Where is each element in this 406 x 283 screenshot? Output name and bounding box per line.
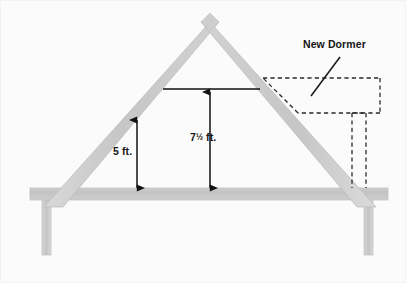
ceiling-joist xyxy=(30,188,388,200)
dimension-label-7-5ft: 7½ ft. xyxy=(190,131,216,143)
diagram-figure: 5 ft. 7½ ft. New Dormer xyxy=(0,0,406,283)
dormer-wall-drop-lines xyxy=(352,113,366,188)
dimension-7-5ft-fraction: ½ xyxy=(196,132,203,142)
new-dormer-leader-line xyxy=(311,57,340,96)
ceiling-joist-band xyxy=(30,188,388,200)
ridge-cap xyxy=(201,13,219,30)
dimension-7-5ft-unit: ft. xyxy=(203,131,216,143)
dimension-label-5ft: 5 ft. xyxy=(113,145,132,157)
new-dormer-label: New Dormer xyxy=(303,38,366,50)
left-rafter xyxy=(44,22,219,207)
leader-line xyxy=(311,57,340,96)
wall-posts xyxy=(42,196,373,255)
